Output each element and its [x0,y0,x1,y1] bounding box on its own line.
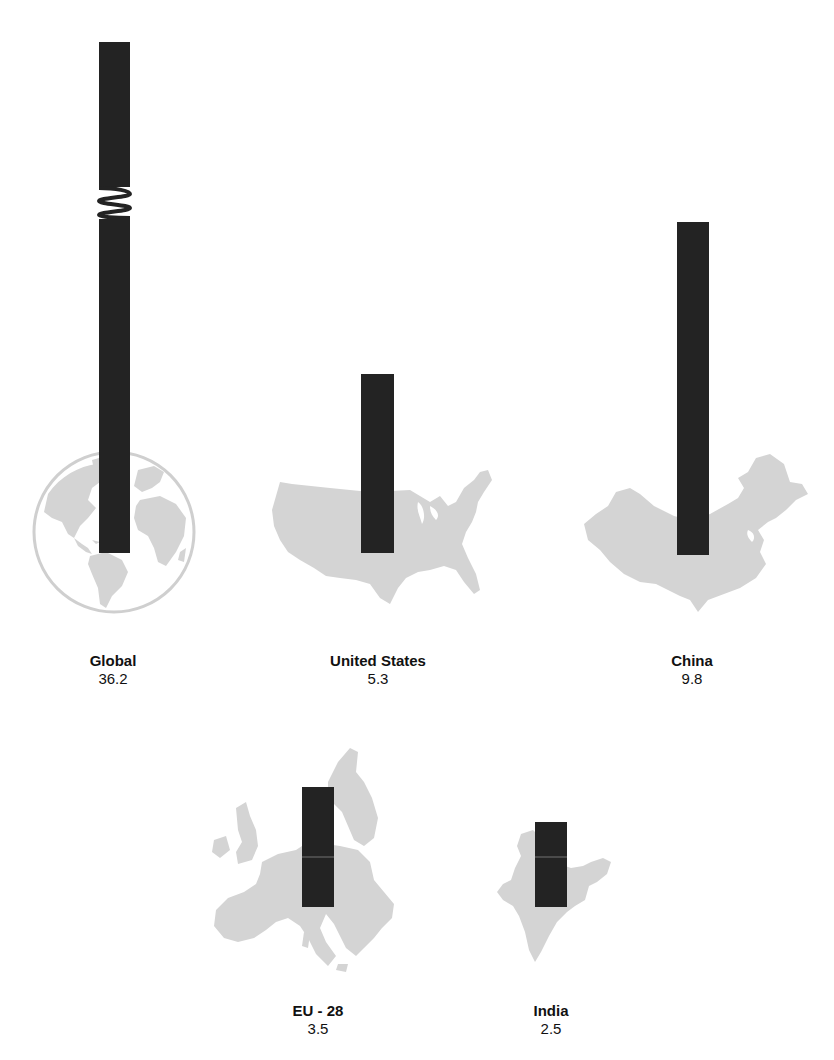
label-eu-28: EU - 28 3.5 [218,1002,418,1038]
region-name: China [592,652,792,670]
bar-eu-28 [302,787,334,907]
region-name: India [451,1002,651,1020]
label-china: China 9.8 [592,652,792,688]
axis-break-icon [96,184,134,222]
region-value: 36.2 [13,670,213,688]
bar-seam [535,856,567,858]
region-value: 5.3 [278,670,478,688]
label-united-states: United States 5.3 [278,652,478,688]
bar-seam [302,856,334,858]
label-india: India 2.5 [451,1002,651,1038]
region-name: United States [278,652,478,670]
region-value: 3.5 [218,1020,418,1038]
region-name: Global [13,652,213,670]
bar-united-states [361,374,394,553]
region-name: EU - 28 [218,1002,418,1020]
bar-china [677,222,709,555]
bar-india [535,822,567,907]
label-global: Global 36.2 [13,652,213,688]
bar-global [99,42,130,553]
region-value: 9.8 [592,670,792,688]
region-value: 2.5 [451,1020,651,1038]
